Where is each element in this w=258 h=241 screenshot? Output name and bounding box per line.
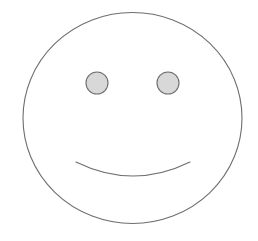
left-eye [86, 72, 108, 94]
drawing-canvas [0, 0, 258, 241]
smiley-face-figure [0, 0, 258, 241]
canvas-background [0, 0, 258, 241]
right-eye [157, 72, 179, 94]
